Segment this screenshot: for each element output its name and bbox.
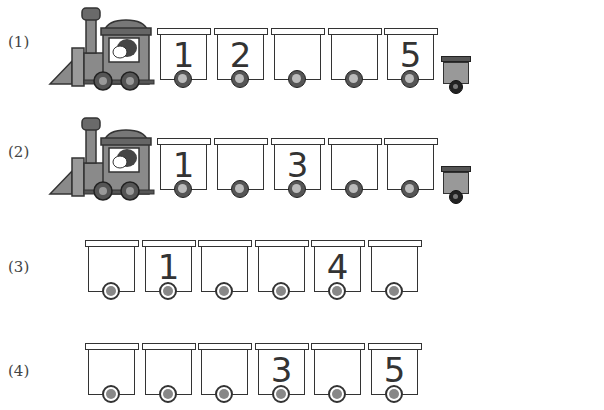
- wheel-icon: [328, 385, 346, 403]
- wheel-icon: [288, 70, 306, 88]
- car-number: 5: [387, 35, 434, 75]
- wheel-icon: [272, 385, 290, 403]
- wheel-icon: [159, 282, 177, 300]
- car-number: 2: [217, 35, 264, 75]
- wheel-icon: [102, 282, 120, 300]
- train-car: [142, 343, 196, 399]
- wheel-icon: [385, 282, 403, 300]
- train-car: [255, 240, 309, 296]
- car-number: 5: [371, 350, 418, 390]
- wheel-icon: [401, 180, 419, 198]
- car-number: 1: [160, 35, 207, 75]
- car-number: [88, 247, 135, 287]
- train-car: 1: [142, 240, 196, 296]
- train-car: [198, 240, 252, 296]
- train-car: [311, 343, 365, 399]
- wheel-icon: [449, 190, 463, 204]
- train-car: [85, 240, 139, 296]
- car-number: [331, 35, 378, 75]
- wheel-icon: [102, 385, 120, 403]
- wheel-icon: [328, 282, 346, 300]
- wheel-icon: [231, 70, 249, 88]
- locomotive-icon: [48, 116, 158, 201]
- car-number: [88, 350, 135, 390]
- car-number: [331, 145, 378, 185]
- car-number: [201, 350, 248, 390]
- train-car: 3: [255, 343, 309, 399]
- train-car: 1: [157, 28, 211, 84]
- car-number: [274, 35, 321, 75]
- train-car: [328, 138, 382, 194]
- wheel-icon: [385, 385, 403, 403]
- train-car: [198, 343, 252, 399]
- wheel-icon: [345, 70, 363, 88]
- car-number: [387, 145, 434, 185]
- train-car: [368, 240, 422, 296]
- car-number: 3: [274, 145, 321, 185]
- train-car: [85, 343, 139, 399]
- car-number: [201, 247, 248, 287]
- wheel-icon: [449, 80, 463, 94]
- car-number: [371, 247, 418, 287]
- caboose: [441, 56, 471, 88]
- wheel-icon: [272, 282, 290, 300]
- wheel-icon: [288, 180, 306, 198]
- train-car: [214, 138, 268, 194]
- train-row-1: 1 2 5: [0, 0, 604, 100]
- train-car: 4: [311, 240, 365, 296]
- wheel-icon: [215, 282, 233, 300]
- train-car: 2: [214, 28, 268, 84]
- car-number: [145, 350, 192, 390]
- train-row-3: 1 4: [0, 240, 604, 310]
- train-car: [328, 28, 382, 84]
- locomotive-icon: [48, 6, 158, 91]
- wheel-icon: [231, 180, 249, 198]
- caboose: [441, 166, 471, 198]
- car-number: [314, 350, 361, 390]
- train-car: 5: [368, 343, 422, 399]
- train-car: [384, 138, 438, 194]
- car-number: 1: [145, 247, 192, 287]
- train-car: 5: [384, 28, 438, 84]
- train-row-2: 1 3: [0, 110, 604, 210]
- car-number: [258, 247, 305, 287]
- car-number: 3: [258, 350, 305, 390]
- wheel-icon: [174, 70, 192, 88]
- wheel-icon: [401, 70, 419, 88]
- wheel-icon: [159, 385, 177, 403]
- wheel-icon: [215, 385, 233, 403]
- train-car: 3: [271, 138, 325, 194]
- car-number: [217, 145, 264, 185]
- train-row-4: 3 5: [0, 343, 604, 410]
- wheel-icon: [345, 180, 363, 198]
- car-number: 4: [314, 247, 361, 287]
- train-car: [271, 28, 325, 84]
- car-number: 1: [160, 145, 207, 185]
- wheel-icon: [174, 180, 192, 198]
- train-car: 1: [157, 138, 211, 194]
